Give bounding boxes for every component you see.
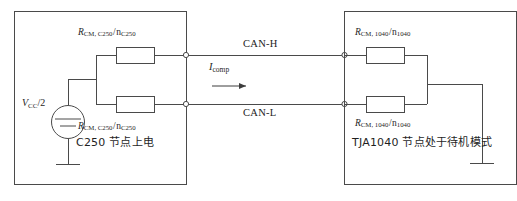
left-block-caption: C250 节点上电 — [76, 137, 154, 148]
right-top-resistor-label: RCM, 1040/n1040 — [355, 28, 410, 38]
can-l-label: CAN-L — [243, 108, 277, 119]
right-top-resistor-subscript: CM, 1040 — [361, 30, 389, 37]
left-top-resistor-label: RCM, C250/nC250 — [78, 28, 136, 38]
right-bottom-resistor-subscript: CM, 1040 — [361, 121, 389, 128]
left-bottom-resistor — [117, 97, 155, 113]
left-bottom-resistor-denominator-subscript: C250 — [121, 124, 136, 131]
right-bottom-resistor — [367, 97, 405, 113]
can-h-label: CAN-H — [243, 39, 278, 50]
left-top-resistor-denominator-subscript: C250 — [121, 30, 136, 37]
right-block-caption: TJA1040 节点处于待机模式 — [352, 137, 492, 148]
voltage-source-divisor: /2 — [37, 97, 45, 108]
current-label: Icomp — [209, 62, 229, 73]
right-bottom-resistor-label: RCM, 1040/n1040 — [355, 119, 410, 129]
voltage-source-label: VCC/2 — [22, 98, 45, 110]
left-top-resistor-subscript: CM, C250 — [84, 30, 113, 37]
left-top-resistor — [117, 48, 155, 64]
right-top-resistor — [367, 48, 405, 64]
node-marker-left-can-h — [183, 52, 188, 57]
circuit-diagram: RCM, C250/nC250 RCM, C250/nC250 C250 节点上… — [0, 0, 517, 201]
current-arrow-head — [239, 83, 246, 89]
right-top-resistor-denominator-subscript: 1040 — [397, 30, 411, 37]
left-bottom-resistor-subscript: CM, C250 — [84, 124, 113, 131]
right-bottom-resistor-denominator-subscript: 1040 — [397, 121, 411, 128]
current-subscript: comp — [213, 65, 230, 74]
left-bottom-resistor-label: RCM, C250/nC250 — [78, 122, 136, 132]
node-marker-left-can-l — [183, 101, 188, 106]
